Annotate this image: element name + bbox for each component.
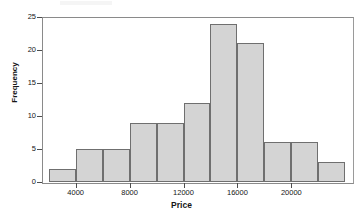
y-axis-tick-mark xyxy=(37,182,42,183)
histogram-bar xyxy=(264,142,291,182)
y-axis-tick-mark xyxy=(37,116,42,117)
histogram-bar xyxy=(237,43,264,182)
histogram-bar xyxy=(184,103,211,182)
y-axis-tick-label: 20 xyxy=(6,46,36,54)
y-axis-tick-label: 15 xyxy=(6,79,36,87)
histogram-bar xyxy=(130,123,157,182)
x-axis-tick-label: 20000 xyxy=(268,189,314,197)
histogram-bar xyxy=(291,142,318,182)
y-axis-tick-label: 25 xyxy=(6,13,36,21)
x-axis-tick-label: 12000 xyxy=(161,189,207,197)
histogram-bar xyxy=(318,162,345,182)
x-axis-tick-label: 8000 xyxy=(107,189,153,197)
bars-container xyxy=(42,17,352,182)
y-axis-tick-mark xyxy=(37,50,42,51)
y-axis-tick-label: 10 xyxy=(6,112,36,120)
histogram-chart: Frequency 051015202540008000120001600020… xyxy=(0,0,363,215)
histogram-bar xyxy=(103,149,130,182)
scan-artifact xyxy=(60,1,112,5)
y-axis-tick-mark xyxy=(37,83,42,84)
histogram-bar xyxy=(76,149,103,182)
x-axis-tick-label: 16000 xyxy=(214,189,260,197)
x-axis-tick-label: 4000 xyxy=(53,189,99,197)
y-axis-tick-mark xyxy=(37,149,42,150)
x-axis-title: Price xyxy=(0,200,363,210)
y-axis-tick-label: 5 xyxy=(6,145,36,153)
y-axis-tick-mark xyxy=(37,17,42,18)
histogram-bar xyxy=(210,24,237,182)
y-axis-tick-label: 0 xyxy=(6,178,36,186)
histogram-bar xyxy=(49,169,76,182)
histogram-bar xyxy=(157,123,184,182)
